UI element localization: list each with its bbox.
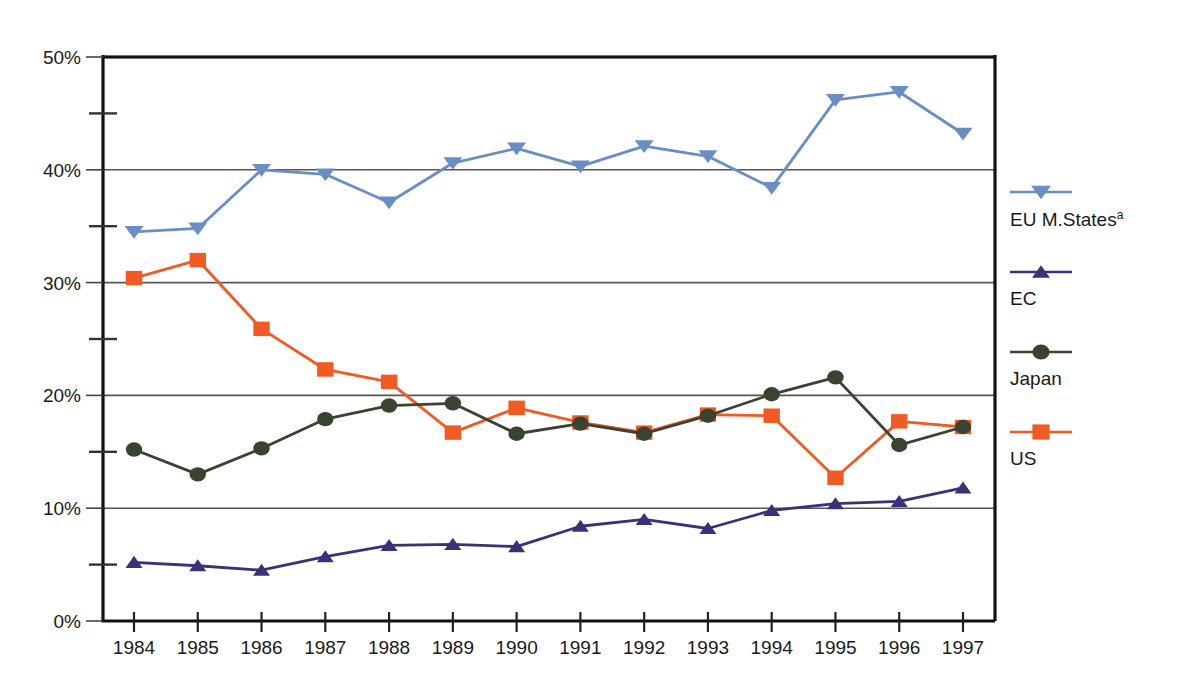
data-marker [317, 362, 333, 376]
x-tick-label: 1992 [623, 637, 665, 658]
line-chart: 0%10%20%30%40%50% 1984198519861987198819… [0, 0, 1177, 696]
data-marker [381, 375, 397, 389]
legend-item-japan[interactable]: Japan [1010, 344, 1072, 389]
legend-item-us[interactable]: US [1010, 424, 1072, 469]
data-marker [253, 322, 269, 336]
legend-label: Japan [1010, 368, 1062, 389]
x-tick-label: 1989 [432, 637, 474, 658]
series-eu-m-states [125, 86, 973, 239]
chart-svg: 0%10%20%30%40%50% 1984198519861987198819… [0, 0, 1177, 696]
x-tick-label: 1986 [240, 637, 282, 658]
x-tick-label: 1991 [559, 637, 601, 658]
series-japan [126, 370, 971, 481]
y-axis-tick-labels: 0%10%20%30%40%50% [43, 47, 81, 632]
data-marker [317, 412, 333, 426]
series-line [134, 377, 963, 474]
data-marker [1032, 424, 1049, 439]
x-tick-label: 1987 [304, 637, 346, 658]
data-marker [380, 197, 399, 210]
data-marker [700, 409, 716, 423]
data-marker [1032, 344, 1049, 359]
data-marker [891, 414, 907, 428]
series-line [134, 92, 963, 232]
data-marker [126, 442, 142, 456]
data-marker [763, 408, 779, 422]
data-marker [445, 425, 461, 439]
data-marker [827, 471, 843, 485]
legend-label: EU M.Statesa [1010, 208, 1124, 230]
legend-label: EC [1010, 288, 1036, 309]
legend-item-ec[interactable]: EC [1010, 265, 1072, 309]
data-marker [955, 481, 972, 493]
data-marker [126, 271, 142, 285]
x-tick-label: 1997 [942, 637, 984, 658]
data-marker [954, 128, 973, 141]
data-marker [827, 370, 843, 384]
series-layer [125, 86, 973, 576]
legend-label-superscript: a [1117, 208, 1124, 222]
data-marker [891, 438, 907, 452]
series-line [134, 488, 963, 570]
x-tick-label: 1984 [113, 637, 156, 658]
data-marker [381, 398, 397, 412]
legend-item-eu-m-states[interactable]: EU M.Statesa [1010, 186, 1124, 230]
x-tick-label: 1995 [814, 637, 856, 658]
x-tick-label: 1990 [495, 637, 537, 658]
data-marker [762, 182, 781, 195]
data-marker [253, 441, 269, 455]
series-ec [126, 481, 972, 575]
x-tick-label: 1996 [878, 637, 920, 658]
x-tick-label: 1993 [687, 637, 729, 658]
series-us [126, 253, 971, 485]
chart-legend: EU M.StatesaECJapanUS [1010, 186, 1124, 469]
data-marker [508, 427, 524, 441]
data-marker [955, 420, 971, 434]
y-tick-label: 0% [54, 611, 82, 632]
data-marker [445, 396, 461, 410]
x-axis-tick-labels: 1984198519861987198819891990199119921993… [113, 637, 984, 658]
data-marker [571, 161, 590, 174]
data-marker [572, 416, 588, 430]
x-tick-label: 1988 [368, 637, 410, 658]
y-tick-label: 50% [43, 47, 81, 68]
data-marker [190, 467, 206, 481]
y-tick-label: 40% [43, 160, 81, 181]
y-tick-label: 20% [43, 385, 81, 406]
x-tick-label: 1994 [751, 637, 794, 658]
y-tick-label: 10% [43, 498, 81, 519]
x-tick-label: 1985 [177, 637, 219, 658]
legend-label: US [1010, 448, 1036, 469]
data-marker [508, 401, 524, 415]
data-marker [190, 253, 206, 267]
gridlines [103, 57, 995, 508]
data-marker [763, 387, 779, 401]
data-marker [698, 150, 717, 163]
y-tick-label: 30% [43, 273, 81, 294]
data-marker [636, 427, 652, 441]
